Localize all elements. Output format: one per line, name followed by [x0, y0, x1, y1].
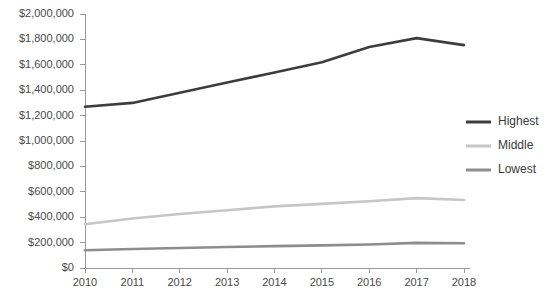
series-line-middle [85, 198, 464, 224]
y-tick-label: $800,000 [28, 159, 74, 171]
x-tick-label: 2011 [121, 276, 145, 288]
series-line-lowest [85, 243, 464, 250]
y-tick-label: $1,600,000 [19, 58, 74, 70]
y-tick-label: $1,000,000 [19, 134, 74, 146]
y-tick-label: $600,000 [28, 185, 74, 197]
x-tick-label: 2016 [357, 276, 381, 288]
y-tick-label: $1,400,000 [19, 83, 74, 95]
y-tick-label: $1,800,000 [19, 32, 74, 44]
chart-legend: HighestMiddleLowest [466, 114, 539, 176]
legend-label-highest[interactable]: Highest [498, 114, 539, 128]
y-tick-group: $0$200,000$400,000$600,000$800,000$1,000… [19, 7, 85, 273]
legend-label-lowest[interactable]: Lowest [498, 162, 537, 176]
y-tick-label: $400,000 [28, 210, 74, 222]
x-tick-label: 2013 [215, 276, 239, 288]
legend-label-middle[interactable]: Middle [498, 138, 534, 152]
line-chart: $0$200,000$400,000$600,000$800,000$1,000… [0, 0, 555, 301]
x-tick-label: 2017 [404, 276, 428, 288]
series-group [85, 38, 464, 250]
y-axis: $0$200,000$400,000$600,000$800,000$1,000… [19, 7, 85, 273]
y-tick-label: $1,200,000 [19, 109, 74, 121]
x-tick-label: 2010 [73, 276, 97, 288]
y-tick-label: $200,000 [28, 236, 74, 248]
x-tick-group: 201020112012201320142015201620172018 [73, 268, 476, 288]
chart-canvas: $0$200,000$400,000$600,000$800,000$1,000… [0, 0, 555, 301]
x-tick-label: 2015 [310, 276, 334, 288]
x-tick-label: 2014 [262, 276, 286, 288]
x-axis: 201020112012201320142015201620172018 [73, 268, 476, 288]
x-tick-label: 2018 [452, 276, 476, 288]
y-tick-label: $0 [62, 261, 74, 273]
series-line-highest [85, 38, 464, 107]
y-tick-label: $2,000,000 [19, 7, 74, 19]
x-tick-label: 2012 [168, 276, 192, 288]
